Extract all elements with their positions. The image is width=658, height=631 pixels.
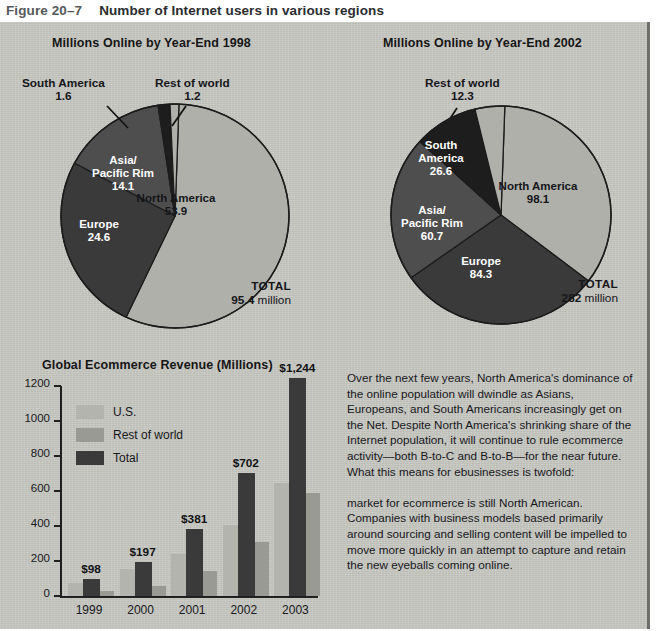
pie-2002-callout-rest-of-world: Rest of world 12.3 (425, 77, 500, 104)
bar-chart: Global Ecommerce Revenue (Millions) 0200… (18, 358, 330, 631)
y-tick: 0 (54, 595, 61, 597)
callout-label-text: Rest of world (425, 76, 500, 90)
y-tick: 1200 (54, 385, 61, 387)
bar-total (289, 378, 306, 596)
legend-label: Rest of world (113, 428, 183, 442)
callout-label-value: 1.2 (155, 90, 230, 103)
y-tick-label: 600 (31, 482, 50, 494)
total-word: TOTAL (151, 280, 291, 294)
y-tick-label: 200 (31, 552, 50, 564)
total-value: 282 million (478, 292, 618, 306)
body-copy: Over the next few years, North America's… (347, 370, 635, 573)
legend-item: U.S. (76, 402, 183, 421)
x-tick-label: 2000 (127, 603, 154, 617)
bar-data-label: $1,244 (279, 361, 315, 375)
y-tick: 1000 (54, 420, 61, 422)
callout-label-value: 12.3 (425, 90, 500, 103)
legend-item: Total (76, 448, 183, 467)
bar-chart-legend: U.S.Rest of worldTotal (76, 402, 183, 471)
body-paragraph-2: market for ecommerce is still North Amer… (347, 495, 635, 573)
pie-1998-callout-south-america: South America 1.6 (22, 77, 105, 104)
callout-label-value: 1.6 (22, 90, 105, 103)
pie-1998-callout-rest-of-world: Rest of world 1.2 (155, 77, 230, 104)
figure-panel: Millions Online by Year-End 1998 South A… (0, 22, 650, 629)
y-tick: 400 (54, 525, 61, 527)
pie-1998-total: TOTAL 95.4 million (151, 280, 291, 307)
total-unit: million (258, 293, 291, 307)
bar-group (223, 386, 275, 596)
x-tick-label: 2003 (282, 603, 309, 617)
x-axis (60, 596, 318, 598)
x-tick-label: 1999 (76, 603, 103, 617)
callout-label-text: Rest of world (155, 76, 230, 90)
total-number: 282 (562, 291, 582, 305)
pie-2002-total: TOTAL 282 million (478, 278, 618, 305)
bar-data-label: $381 (181, 512, 207, 526)
figure-caption: Figure 20–7 Number of Internet users in … (6, 1, 384, 20)
y-tick-label: 0 (44, 587, 50, 599)
body-paragraph-1: Over the next few years, North America's… (347, 370, 635, 479)
bar-total (83, 579, 100, 596)
y-tick-label: 1000 (24, 412, 50, 424)
legend-swatch (76, 405, 104, 419)
figure-number: Figure 20–7 (6, 3, 82, 18)
bar-chart-title: Global Ecommerce Revenue (Millions) (42, 358, 273, 372)
x-tick-label: 2001 (179, 603, 206, 617)
pie-1998-title: Millions Online by Year-End 1998 (52, 36, 251, 50)
callout-label-text: South America (22, 76, 105, 90)
y-tick: 600 (54, 490, 61, 492)
legend-label: Total (113, 451, 138, 465)
bar-total (238, 473, 255, 596)
legend-swatch (76, 428, 104, 442)
bar-data-label: $98 (81, 562, 101, 576)
y-tick-label: 800 (31, 447, 50, 459)
y-tick: 800 (54, 455, 61, 457)
legend-label: U.S. (113, 405, 136, 419)
total-word: TOTAL (478, 278, 618, 292)
bar-group (274, 386, 326, 596)
bar-data-label: $702 (233, 456, 259, 470)
pie-2002-title: Millions Online by Year-End 2002 (383, 36, 582, 50)
y-axis (60, 386, 62, 598)
bar-data-label: $197 (129, 545, 155, 559)
total-unit: million (585, 291, 618, 305)
y-tick: 200 (54, 560, 61, 562)
legend-swatch (76, 451, 104, 465)
bar-total (135, 562, 152, 596)
total-value: 95.4 million (151, 294, 291, 308)
bar-total (186, 529, 203, 596)
total-number: 95.4 (231, 293, 254, 307)
y-tick-label: 1200 (24, 377, 50, 389)
y-tick-label: 400 (31, 517, 50, 529)
x-tick-label: 2002 (230, 603, 257, 617)
legend-item: Rest of world (76, 425, 183, 444)
figure-title: Number of Internet users in various regi… (99, 3, 384, 18)
